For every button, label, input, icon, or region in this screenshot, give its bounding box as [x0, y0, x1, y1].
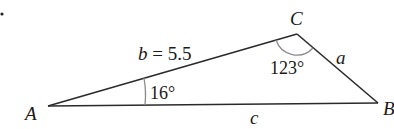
vertex-label-a: A [23, 103, 37, 124]
side-b-var: b [138, 43, 148, 64]
angle-label-c: 123° [270, 58, 304, 78]
side-b-value: 5.5 [168, 43, 192, 64]
side-label-a: a [336, 47, 346, 68]
triangle-diagram: A C B b = 5.5 a c 16° 123° [0, 0, 394, 129]
bullet-dot [0, 12, 3, 15]
side-b-eq: = [148, 43, 168, 64]
angle-arc-a [144, 78, 146, 105]
side-label-b: b = 5.5 [138, 43, 191, 64]
side-a [297, 34, 378, 103]
vertex-label-b: B [383, 98, 394, 119]
side-label-c: c [250, 107, 259, 128]
vertex-label-c: C [290, 8, 303, 29]
angle-label-a: 16° [150, 83, 175, 103]
side-c [48, 103, 378, 106]
